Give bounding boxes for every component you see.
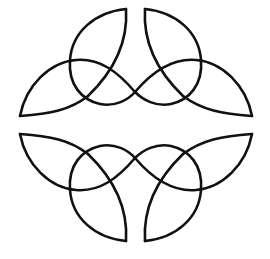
upper-right-side-petal-inner — [183, 96, 252, 116]
lower-right-bottom-petal-inner — [145, 154, 183, 241]
lower-left-bottom-petal-inner — [88, 154, 126, 241]
lower-left-side-petal-inner — [20, 134, 88, 154]
celtic-knot-illustration: Celtic knot ornament: two mirrored triqu… — [0, 0, 270, 259]
lower-knot — [20, 134, 252, 241]
knot-svg — [0, 0, 270, 259]
upper-right-top-petal-inner — [145, 9, 183, 96]
upper-knot — [20, 9, 252, 116]
lower-right-side-petal-inner — [183, 134, 252, 154]
upper-left-top-petal-inner — [88, 9, 126, 96]
upper-left-side-petal-inner — [20, 96, 88, 116]
